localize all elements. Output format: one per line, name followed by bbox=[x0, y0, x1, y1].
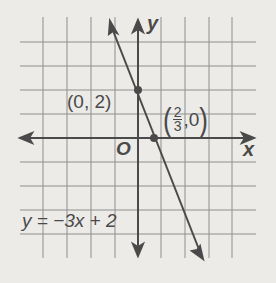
equation-label: y = −3x + 2 bbox=[22, 210, 117, 232]
y-axis-label: y bbox=[147, 12, 158, 35]
y-intercept-label: (0, 2) bbox=[67, 91, 111, 113]
x-axis-label: x bbox=[243, 138, 254, 161]
x-intercept-rest: ,0 bbox=[183, 109, 199, 131]
origin-label: O bbox=[116, 138, 131, 160]
point-y-intercept bbox=[134, 86, 142, 94]
paren-open: ( bbox=[163, 99, 172, 139]
coordinate-graph bbox=[0, 0, 276, 283]
x-intercept-label: ( 2 3 ,0 ) bbox=[163, 104, 208, 135]
fraction: 2 3 bbox=[173, 106, 183, 133]
point-x-intercept bbox=[150, 134, 158, 142]
paren-close: ) bbox=[199, 99, 208, 139]
fraction-denominator: 3 bbox=[174, 120, 182, 133]
